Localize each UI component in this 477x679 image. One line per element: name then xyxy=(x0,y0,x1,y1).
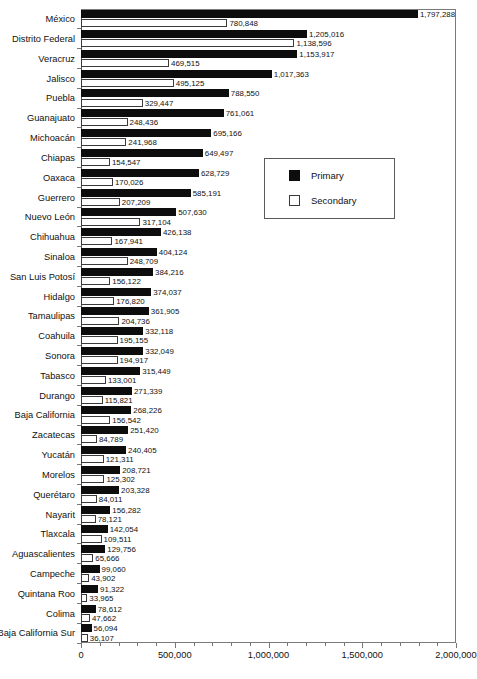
x-axis-tick xyxy=(362,643,363,648)
bar-value-label: 469,515 xyxy=(171,59,200,68)
bar-value-label: 649,497 xyxy=(205,148,234,157)
bar-row: Jalisco1,017,363495,125 xyxy=(81,68,456,88)
bar-primary: 649,497 xyxy=(81,149,203,157)
bar-secondary: 170,026 xyxy=(81,178,113,186)
legend-item-primary: Primary xyxy=(289,170,344,181)
bar-value-label: 156,542 xyxy=(112,415,141,424)
bar-value-label: 315,449 xyxy=(142,366,171,375)
bar-value-label: 91,322 xyxy=(100,584,124,593)
legend-label-primary: Primary xyxy=(311,170,344,181)
category-label: Chiapas xyxy=(41,153,75,163)
bar-primary: 91,322 xyxy=(81,585,98,593)
x-axis: 0500,0001,000,0001,500,0002,000,000 xyxy=(81,643,456,673)
bar-row: Baja California268,226156,542 xyxy=(81,405,456,425)
bar-value-label: 78,121 xyxy=(98,514,122,523)
bar-value-label: 56,094 xyxy=(94,624,118,633)
bar-primary: 208,721 xyxy=(81,466,120,474)
bar-primary: 332,118 xyxy=(81,327,143,335)
x-axis-tick-label: 2,000,000 xyxy=(435,650,476,661)
x-axis-minor-tick xyxy=(306,643,307,646)
bar-primary: 1,153,917 xyxy=(81,50,297,58)
bar-primary: 1,797,288 xyxy=(81,10,418,18)
bar-primary: 78,612 xyxy=(81,605,96,613)
category-label: San Luis Potosí xyxy=(10,272,75,282)
x-axis-minor-tick xyxy=(212,643,213,646)
bar-secondary: 115,821 xyxy=(81,396,103,404)
bar-value-label: 241,968 xyxy=(128,138,157,147)
x-axis-tick xyxy=(81,643,82,648)
bar-primary: 240,405 xyxy=(81,446,126,454)
bar-value-label: 154,547 xyxy=(112,158,141,167)
bar-row: Sinaloa404,124248,709 xyxy=(81,247,456,267)
bar-value-label: 208,721 xyxy=(122,465,151,474)
bar-value-label: 495,125 xyxy=(176,78,205,87)
bar-row: Michoacán695,166241,968 xyxy=(81,128,456,148)
bar-value-label: 195,155 xyxy=(120,336,149,345)
bar-row: Distrito Federal1,205,0161,138,596 xyxy=(81,29,456,49)
bar-secondary: 84,789 xyxy=(81,435,97,443)
bar-value-label: 65,666 xyxy=(95,554,119,563)
category-label: Guanajuato xyxy=(27,113,75,123)
category-label: Aguascalientes xyxy=(12,549,75,559)
x-axis-minor-tick xyxy=(137,643,138,646)
bar-secondary: 125,302 xyxy=(81,475,104,483)
category-label: Tlaxcala xyxy=(40,529,75,539)
bar-primary: 129,756 xyxy=(81,545,105,553)
bar-value-label: 203,328 xyxy=(121,485,150,494)
bar-secondary: 43,902 xyxy=(81,574,89,582)
bar-primary: 426,138 xyxy=(81,228,161,236)
bar-value-label: 115,821 xyxy=(105,395,133,404)
category-label: México xyxy=(46,14,75,24)
x-axis-tick-label: 0 xyxy=(78,650,83,661)
bar-secondary: 317,104 xyxy=(81,218,140,226)
category-label: Guerrero xyxy=(38,193,75,203)
bar-value-label: 167,941 xyxy=(114,237,143,246)
bar-value-label: 1,205,016 xyxy=(309,30,344,39)
category-label: Sinaloa xyxy=(44,252,75,262)
category-label: Jalisco xyxy=(47,74,75,84)
bar-secondary: 780,848 xyxy=(81,19,227,27)
bar-primary: 788,550 xyxy=(81,89,229,97)
x-axis-tick-label: 1,000,000 xyxy=(248,650,289,661)
bar-row: Zacatecas251,42084,789 xyxy=(81,425,456,445)
bar-value-label: 207,209 xyxy=(122,197,151,206)
x-axis-tick-label: 500,000 xyxy=(158,650,192,661)
bar-value-label: 332,049 xyxy=(145,347,174,356)
bar-value-label: 170,026 xyxy=(115,177,144,186)
bar-secondary: 248,436 xyxy=(81,118,128,126)
bar-row: Tamaulipas361,905204,736 xyxy=(81,306,456,326)
bar-value-label: 248,709 xyxy=(130,257,159,266)
bar-value-label: 628,729 xyxy=(201,168,230,177)
bar-primary: 404,124 xyxy=(81,248,157,256)
bar-secondary: 84,011 xyxy=(81,495,97,503)
bar-primary: 271,339 xyxy=(81,387,132,395)
bar-rows-container: México1,797,288780,848Distrito Federal1,… xyxy=(81,9,456,643)
x-axis-tick xyxy=(456,643,457,648)
bar-primary: 203,328 xyxy=(81,486,119,494)
bar-row: Chihuahua426,138167,941 xyxy=(81,227,456,247)
bar-value-label: 121,311 xyxy=(106,455,134,464)
bar-primary: 507,630 xyxy=(81,208,176,216)
category-label: Coahuila xyxy=(38,331,75,341)
x-axis-minor-tick xyxy=(231,643,232,646)
legend-swatch-primary-icon xyxy=(289,170,300,181)
category-label: Colima xyxy=(46,609,75,619)
bar-value-label: 176,820 xyxy=(116,296,145,305)
bar-row: Puebla788,550329,447 xyxy=(81,88,456,108)
bar-secondary: 248,709 xyxy=(81,257,128,265)
bar-primary: 99,060 xyxy=(81,565,100,573)
x-axis-minor-tick xyxy=(419,643,420,646)
x-axis-tick xyxy=(269,643,270,648)
bar-value-label: 761,061 xyxy=(226,109,255,118)
bar-value-label: 133,001 xyxy=(108,376,137,385)
bar-value-label: 1,138,596 xyxy=(296,39,331,48)
bar-secondary: 195,155 xyxy=(81,336,118,344)
category-label: Tamaulipas xyxy=(28,311,75,321)
bar-value-label: 251,420 xyxy=(130,426,159,435)
bar-row: Hidalgo374,037176,820 xyxy=(81,286,456,306)
bar-row: Sonora332,049194,917 xyxy=(81,346,456,366)
category-label: Nayarit xyxy=(46,510,75,520)
bar-row: San Luis Potosí384,216156,122 xyxy=(81,267,456,287)
bar-value-label: 507,630 xyxy=(178,208,207,217)
